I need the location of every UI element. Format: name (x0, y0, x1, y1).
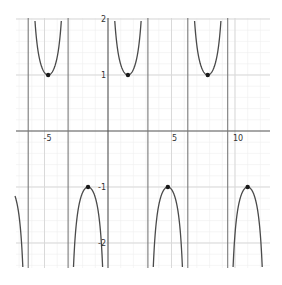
csc-branch (153, 187, 182, 267)
extremum-point (206, 73, 210, 77)
csc-graph: -551021-1-2 (0, 0, 282, 285)
y-tick-label: 1 (101, 71, 106, 80)
extremum-point (126, 73, 130, 77)
extremum-point (46, 73, 50, 77)
csc-branch (115, 21, 141, 75)
major-grid (16, 18, 270, 268)
x-tick-label: -5 (44, 134, 52, 143)
csc-branch (73, 187, 102, 267)
csc-branch (195, 21, 221, 75)
x-tick-label: 10 (233, 134, 243, 143)
extremum-point (245, 185, 249, 189)
y-tick-label: -2 (98, 239, 106, 248)
minor-grid (16, 18, 270, 268)
extremum-point (166, 185, 170, 189)
curve-branches (15, 21, 262, 267)
axes (16, 18, 270, 268)
extremum-point (86, 185, 90, 189)
y-tick-label: 2 (101, 15, 106, 24)
y-tick-label: -1 (98, 183, 106, 192)
x-tick-label: 5 (172, 134, 177, 143)
